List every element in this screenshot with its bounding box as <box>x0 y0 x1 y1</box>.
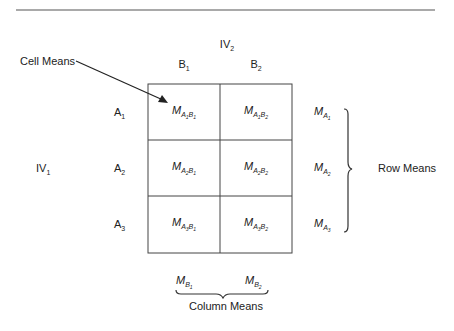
column-means-label: Column Means <box>189 300 263 312</box>
column-header-b1: B1 <box>178 58 189 72</box>
row-mean-a3: MA3 <box>314 217 331 234</box>
iv2-label: IV2 <box>220 38 234 52</box>
row-mean-a1: MA1 <box>314 105 331 122</box>
cell-a2-b2: MA2B2 <box>220 140 292 196</box>
row-means-brace <box>344 109 352 232</box>
column-mean-b2: MB2 <box>245 274 262 291</box>
cell-a2-b1: MA2B1 <box>148 140 220 196</box>
column-header-b2: B2 <box>250 58 261 72</box>
iv1-label: IV1 <box>36 162 50 176</box>
row-mean-a2: MA2 <box>314 161 331 178</box>
row-header-a1: A1 <box>114 106 125 120</box>
cell-a3-b2: MA3B2 <box>220 196 292 253</box>
row-header-a3: A3 <box>114 218 125 232</box>
cell-a3-b1: MA3B1 <box>148 196 220 253</box>
row-header-a2: A2 <box>114 162 125 176</box>
row-means-label: Row Means <box>378 162 436 174</box>
means-grid: MA1B1 MA1B2 MA2B1 MA2B2 MA3B1 MA3B2 <box>148 84 292 253</box>
cell-a1-b2: MA1B2 <box>220 84 292 140</box>
column-mean-b1: MB1 <box>176 274 193 291</box>
cell-means-label: Cell Means <box>20 55 75 67</box>
cell-a1-b1: MA1B1 <box>148 84 220 140</box>
column-means-brace <box>176 290 268 298</box>
